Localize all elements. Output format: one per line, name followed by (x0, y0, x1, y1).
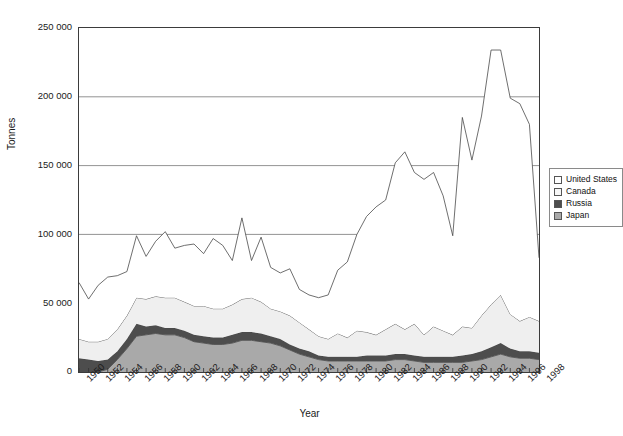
x-tick-label: 1950 (84, 361, 107, 384)
legend-label-canada: Canada (566, 187, 596, 196)
x-tick-label: 1984 (410, 361, 433, 384)
legend-item-united-states[interactable]: United States (554, 174, 617, 185)
legend-label-japan: Japan (566, 211, 589, 220)
x-tick-label: 1992 (487, 361, 510, 384)
x-tick-label: 1952 (103, 361, 126, 384)
x-tick-label: 1962 (199, 361, 222, 384)
legend-label-united-states: United States (566, 175, 617, 184)
x-tick-label: 1972 (295, 361, 318, 384)
x-tick-label: 1956 (142, 361, 165, 384)
x-tick-label: 1954 (122, 361, 145, 384)
x-tick-label: 1964 (218, 361, 241, 384)
x-tick-label: 1994 (506, 361, 529, 384)
x-tick-label: 1958 (161, 361, 184, 384)
x-tick-label: 1976 (333, 361, 356, 384)
x-tick-label: 1998 (544, 361, 567, 384)
x-tick-label: 1968 (257, 361, 280, 384)
x-tick-label: 1988 (448, 361, 471, 384)
x-tick-label: 1960 (180, 361, 203, 384)
x-tick-label: 1996 (525, 361, 548, 384)
x-tick-label: 1978 (352, 361, 375, 384)
legend-item-japan[interactable]: Japan (554, 210, 617, 221)
legend-swatch-canada (554, 188, 562, 196)
x-axis-title: Year (0, 408, 619, 419)
legend-swatch-japan (554, 212, 562, 220)
legend-swatch-united-states (554, 176, 562, 184)
legend-swatch-russia (554, 200, 562, 208)
legend-label-russia: Russia (566, 199, 592, 208)
x-tick-label: 1974 (314, 361, 337, 384)
chart-legend: United States Canada Russia Japan (549, 168, 623, 227)
x-tick-label: 1990 (467, 361, 490, 384)
legend-item-russia[interactable]: Russia (554, 198, 617, 209)
x-tick-label: 1966 (237, 361, 260, 384)
x-tick-label: 1982 (391, 361, 414, 384)
x-tick-label: 1986 (429, 361, 452, 384)
x-tick-label: 1970 (276, 361, 299, 384)
x-tick-label: 1980 (372, 361, 395, 384)
legend-item-canada[interactable]: Canada (554, 186, 617, 197)
